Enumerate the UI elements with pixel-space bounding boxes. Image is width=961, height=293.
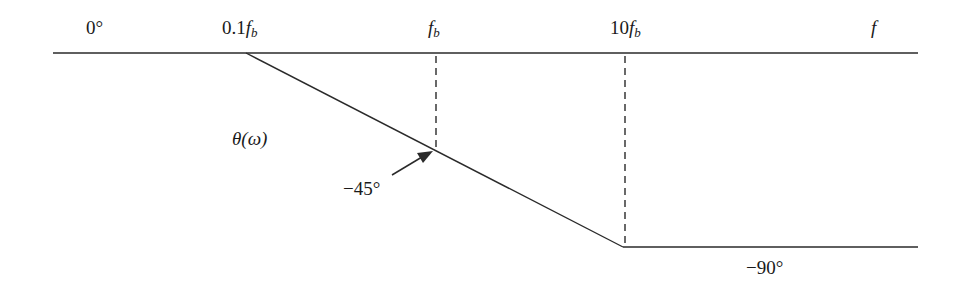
zero-degree-label: 0° (86, 17, 103, 39)
frequency-axis-label: f (871, 17, 876, 39)
fb-label: fb (428, 17, 440, 41)
minus-90-label: −90° (746, 257, 783, 279)
arrow-icon (392, 151, 433, 175)
theta-omega-label: θ(ω) (232, 128, 267, 150)
ten-fb-label: 10fb (610, 17, 641, 41)
phase-plot (0, 0, 961, 293)
phase-slope-line (246, 53, 623, 247)
minus-45-label: −45° (343, 178, 380, 200)
tenth-fb-label: 0.1fb (222, 17, 258, 41)
